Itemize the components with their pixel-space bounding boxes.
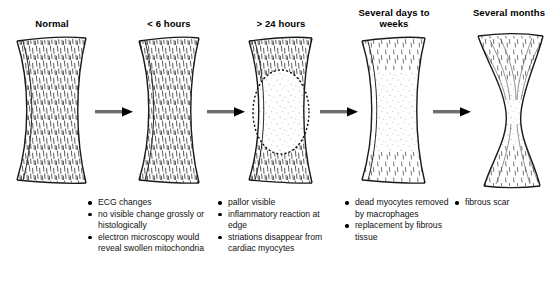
list-item: electron microscopy would reveal swollen… <box>88 232 208 255</box>
bullet-text: pallor visible <box>228 197 336 209</box>
list-item: striations disappear from cardiac myocyt… <box>218 232 336 255</box>
list-item: no visible change grossly or histologica… <box>88 209 208 232</box>
bullet-text: inflammatory reaction at edge <box>228 209 336 232</box>
stage-heading-several-days-to-weeks: Several days to weeks <box>349 7 439 29</box>
bullet-text: ECG changes <box>98 197 208 209</box>
tissue-panel-gt-24-hours <box>249 37 312 184</box>
list-item: replacement by fibrous tissue <box>345 220 453 243</box>
list-item: inflammatory reaction at edge <box>218 209 336 232</box>
bullet-list-several-months: fibrous scar <box>455 197 555 209</box>
bullet-list-several-days-to-weeks: dead myocytes removed by macrophages rep… <box>345 197 453 243</box>
stage-heading-several-months: Several months <box>466 7 552 18</box>
bullet-list-gt-24-hours: pallor visible inflammatory reaction at … <box>218 197 336 255</box>
list-item: dead myocytes removed by macrophages <box>345 197 453 220</box>
list-item: ECG changes <box>88 197 208 209</box>
bullet-text: replacement by fibrous tissue <box>355 220 453 243</box>
list-item: pallor visible <box>218 197 336 209</box>
bullet-text: dead myocytes removed by macrophages <box>355 197 453 220</box>
stage-heading-lt-6-hours: < 6 hours <box>125 18 213 29</box>
stage-heading-gt-24-hours: > 24 hours <box>237 18 325 29</box>
bullet-text: electron microscopy would reveal swollen… <box>98 232 208 255</box>
bullet-list-lt-6-hours: ECG changes no visible change grossly or… <box>88 197 208 255</box>
bullet-text: striations disappear from cardiac myocyt… <box>228 232 336 255</box>
stage-heading-normal: Normal <box>8 18 96 29</box>
bullet-text: no visible change grossly or histologica… <box>98 209 208 232</box>
list-item: fibrous scar <box>455 197 555 209</box>
tissue-panel-normal <box>17 37 86 184</box>
bullet-text: fibrous scar <box>465 197 555 209</box>
